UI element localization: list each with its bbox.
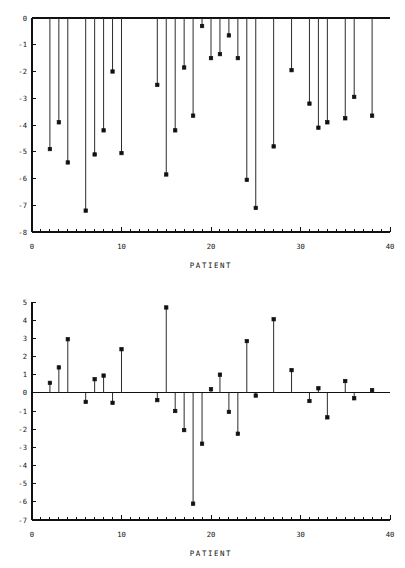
- data-point-marker: [344, 117, 347, 120]
- data-point-marker: [165, 306, 168, 309]
- data-point-marker: [272, 318, 275, 321]
- stem-group: [48, 18, 374, 212]
- data-point-marker: [182, 428, 185, 431]
- y-axis-tick-label: -1: [18, 407, 27, 416]
- data-point-marker: [344, 379, 347, 382]
- y-axis-tick-label: -6: [18, 497, 27, 506]
- data-point-marker: [236, 432, 239, 435]
- data-point-marker: [245, 178, 248, 181]
- data-point-marker: [191, 502, 194, 505]
- y-axis-tick-label: 1: [23, 370, 27, 379]
- x-axis-tick-label: 20: [207, 242, 216, 251]
- stem-group: [48, 306, 374, 506]
- data-point-marker: [272, 145, 275, 148]
- data-point-marker: [370, 388, 373, 391]
- data-point-marker: [218, 373, 221, 376]
- y-axis-tick-label: 5: [23, 298, 27, 307]
- data-point-marker: [156, 83, 159, 86]
- y-axis-tick-label: -4: [18, 121, 27, 130]
- data-point-marker: [353, 95, 356, 98]
- data-point-marker: [120, 348, 123, 351]
- data-point-marker: [93, 378, 96, 381]
- data-point-marker: [353, 397, 356, 400]
- y-axis-tick-label: -7: [18, 516, 27, 525]
- figure-container: 0-1-2-3-4-5-6-7-8010203040PATIENT 543210…: [0, 0, 405, 568]
- data-point-marker: [174, 129, 177, 132]
- data-point-marker: [209, 388, 212, 391]
- data-point-marker: [120, 151, 123, 154]
- x-axis-tick-label: 10: [117, 242, 126, 251]
- x-axis-tick-label: 40: [386, 530, 395, 539]
- data-point-marker: [66, 338, 69, 341]
- x-axis-tick-label: 30: [296, 242, 305, 251]
- data-point-marker: [326, 416, 329, 419]
- data-point-marker: [308, 399, 311, 402]
- data-point-marker: [218, 52, 221, 55]
- y-axis-tick-label: -2: [18, 425, 27, 434]
- data-point-marker: [182, 66, 185, 69]
- y-axis-tick-label: -4: [18, 461, 27, 470]
- data-point-marker: [174, 409, 177, 412]
- y-axis-tick-label: -5: [18, 479, 27, 488]
- data-point-marker: [290, 68, 293, 71]
- y-axis-tick-label: -2: [18, 67, 27, 76]
- data-point-marker: [209, 56, 212, 59]
- data-point-marker: [102, 129, 105, 132]
- data-point-marker: [84, 400, 87, 403]
- stem-plot-top: 0-1-2-3-4-5-6-7-8010203040PATIENT: [0, 0, 405, 284]
- data-point-marker: [290, 368, 293, 371]
- chart-panel-bottom: 543210-1-2-3-4-5-6-7010203040PATIENT: [0, 284, 405, 568]
- x-axis-title: PATIENT: [190, 261, 232, 270]
- data-point-marker: [317, 126, 320, 129]
- data-point-marker: [370, 114, 373, 117]
- data-point-marker: [236, 56, 239, 59]
- data-point-marker: [254, 206, 257, 209]
- data-point-marker: [227, 410, 230, 413]
- data-point-marker: [227, 34, 230, 37]
- data-point-marker: [48, 381, 51, 384]
- data-point-marker: [66, 161, 69, 164]
- x-axis-title: PATIENT: [190, 549, 232, 558]
- y-axis-tick-label: -5: [18, 147, 27, 156]
- x-axis-tick-label: 0: [30, 242, 34, 251]
- data-point-marker: [254, 394, 257, 397]
- data-point-marker: [93, 153, 96, 156]
- y-axis-tick-label: 2: [23, 352, 27, 361]
- x-axis-tick-label: 40: [386, 242, 395, 251]
- stem-plot-bottom: 543210-1-2-3-4-5-6-7010203040PATIENT: [0, 284, 405, 568]
- y-axis-tick-label: -6: [18, 174, 27, 183]
- data-point-marker: [102, 374, 105, 377]
- data-point-marker: [200, 24, 203, 27]
- y-axis-tick-label: -7: [18, 201, 27, 210]
- data-point-marker: [111, 70, 114, 73]
- data-point-marker: [48, 147, 51, 150]
- chart-panel-top: 0-1-2-3-4-5-6-7-8010203040PATIENT: [0, 0, 405, 284]
- x-axis-tick-label: 30: [296, 530, 305, 539]
- data-point-marker: [245, 339, 248, 342]
- data-point-marker: [57, 366, 60, 369]
- y-axis-tick-label: -3: [18, 94, 27, 103]
- data-point-marker: [57, 121, 60, 124]
- x-axis-tick-label: 0: [30, 530, 34, 539]
- y-axis-tick-label: 0: [23, 14, 27, 23]
- data-point-marker: [156, 398, 159, 401]
- data-point-marker: [317, 387, 320, 390]
- data-point-marker: [191, 114, 194, 117]
- y-axis-tick-label: 0: [23, 388, 27, 397]
- y-axis-tick-label: -8: [18, 228, 27, 237]
- data-point-marker: [111, 401, 114, 404]
- y-axis-tick-label: 3: [23, 334, 27, 343]
- data-point-marker: [308, 102, 311, 105]
- x-axis-tick-label: 20: [207, 530, 216, 539]
- y-axis-tick-label: -3: [18, 443, 27, 452]
- y-axis-tick-label: -1: [18, 40, 27, 49]
- data-point-marker: [165, 173, 168, 176]
- x-axis-tick-label: 10: [117, 530, 126, 539]
- data-point-marker: [200, 442, 203, 445]
- data-point-marker: [84, 209, 87, 212]
- data-point-marker: [326, 121, 329, 124]
- y-axis-tick-label: 4: [23, 316, 27, 325]
